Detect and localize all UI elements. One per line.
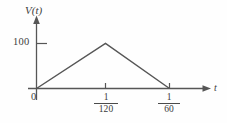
fraction-denominator: 60 [158, 105, 180, 115]
fraction-denominator: 120 [94, 105, 118, 115]
x-tick-label-1-over-60: 1 60 [158, 93, 180, 115]
y-tick-label-100: 100 [13, 37, 29, 48]
chart-figure: V(t) t 100 0 1 120 1 60 [0, 0, 227, 123]
x-tick-label-1-over-120: 1 120 [94, 93, 118, 115]
x-axis-label: t [214, 83, 217, 93]
voltage-waveform-line [37, 44, 170, 89]
y-axis-arrowhead [33, 16, 40, 25]
fraction-numerator: 1 [94, 93, 118, 103]
y-axis-label: V(t) [25, 5, 42, 16]
origin-label: 0 [31, 92, 36, 103]
fraction-numerator: 1 [158, 93, 180, 103]
x-axis-arrowhead [203, 85, 212, 91]
